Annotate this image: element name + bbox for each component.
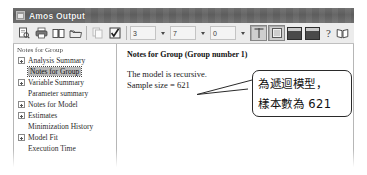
window-title-bar[interactable]: Amos Output — [13, 8, 354, 23]
tree-item-execution-time[interactable]: Execution Time — [16, 143, 116, 154]
tree-item-analysis-summary[interactable]: Analysis Summary — [16, 55, 116, 66]
expand-plus-icon[interactable] — [18, 57, 25, 64]
print-icon[interactable] — [33, 25, 49, 41]
document-heading: Notes for Group (Group number 1) — [127, 50, 353, 59]
expand-plus-icon[interactable] — [18, 79, 25, 86]
window-title: Amos Output — [29, 11, 85, 21]
decimal-places-2-dropdown-icon[interactable] — [198, 26, 207, 40]
annotation-line-1: 為遞迴模型， — [258, 74, 347, 94]
tree-item-label: Model Fit — [28, 133, 58, 142]
decimal-places-1[interactable]: 3 — [130, 26, 156, 40]
display-window-1-button[interactable] — [287, 27, 302, 40]
tree-item-minimization-history[interactable]: Minimization History — [16, 121, 116, 132]
split-horizontal-toggle[interactable] — [250, 25, 267, 41]
decimal-places-3-dropdown-icon[interactable] — [238, 26, 247, 40]
annotation-line-2: 樣本數為 621 — [258, 94, 347, 114]
print-preview-icon[interactable] — [16, 25, 32, 41]
tree-item-model-fit[interactable]: Model Fit — [16, 132, 116, 143]
decimal-places-3[interactable]: 0 — [210, 26, 236, 40]
tree-item-label: Minimization History — [28, 122, 93, 131]
tree-item-parameter-summary[interactable]: Parameter summary — [16, 88, 116, 99]
tree-item-label: Parameter summary — [28, 89, 88, 98]
tree-item-label: Analysis Summary — [28, 56, 85, 65]
decimal-places-3-value: 0 — [211, 30, 217, 37]
annotation-callout: 為遞迴模型， 樣本數為 621 — [252, 70, 352, 117]
tree-item-label: Notes for Model — [28, 100, 78, 109]
checkmark-options-icon[interactable] — [107, 25, 123, 41]
title-bar-filler — [85, 8, 351, 23]
tree-item-label: Estimates — [28, 111, 57, 120]
decimal-places-1-dropdown-icon[interactable] — [158, 26, 167, 40]
tree-item-label: Notes for Group — [28, 67, 81, 76]
toolbar-separator-2 — [126, 26, 127, 40]
display-window-2-button[interactable] — [305, 27, 320, 40]
open-folder-icon[interactable] — [67, 25, 83, 41]
tree-spacer-icon — [18, 68, 25, 75]
tree-item-notes-for-model[interactable]: Notes for Model — [16, 99, 116, 110]
tree-item-estimates[interactable]: Estimates — [16, 110, 116, 121]
decimal-places-2-value: 7 — [171, 30, 177, 37]
app-window-icon — [16, 11, 25, 20]
tree-item-variable-summary[interactable]: Variable Summary — [16, 77, 116, 88]
expand-plus-icon[interactable] — [18, 134, 25, 141]
toolbar: 3 7 0 — [13, 23, 354, 44]
tree-item-label: Execution Time — [28, 144, 76, 153]
tree-root-label: Notes for Group — [16, 46, 116, 55]
help-question-button[interactable]: ? — [326, 28, 331, 39]
help-book-icon[interactable] — [335, 25, 351, 41]
callout-pointer-line — [196, 78, 256, 96]
split-vertical-toggle[interactable] — [268, 25, 285, 41]
book-open-icon[interactable] — [50, 25, 66, 41]
decimal-places-2[interactable]: 7 — [170, 26, 196, 40]
expand-plus-icon[interactable] — [18, 112, 25, 119]
copy-icon[interactable] — [90, 25, 106, 41]
tree-item-notes-for-group[interactable]: Notes for Group — [16, 66, 116, 77]
tree-spacer-icon — [18, 90, 25, 97]
tree-spacer-icon — [18, 145, 25, 152]
output-tree-pane[interactable]: Notes for Group Analysis Summary Notes f… — [13, 44, 117, 168]
tree-item-label: Variable Summary — [28, 78, 84, 87]
tree-spacer-icon — [18, 123, 25, 130]
toolbar-separator-1 — [86, 26, 87, 40]
decimal-places-1-value: 3 — [131, 30, 137, 37]
expand-plus-icon[interactable] — [18, 101, 25, 108]
screenshot-canvas: Amos Output — [0, 0, 367, 175]
